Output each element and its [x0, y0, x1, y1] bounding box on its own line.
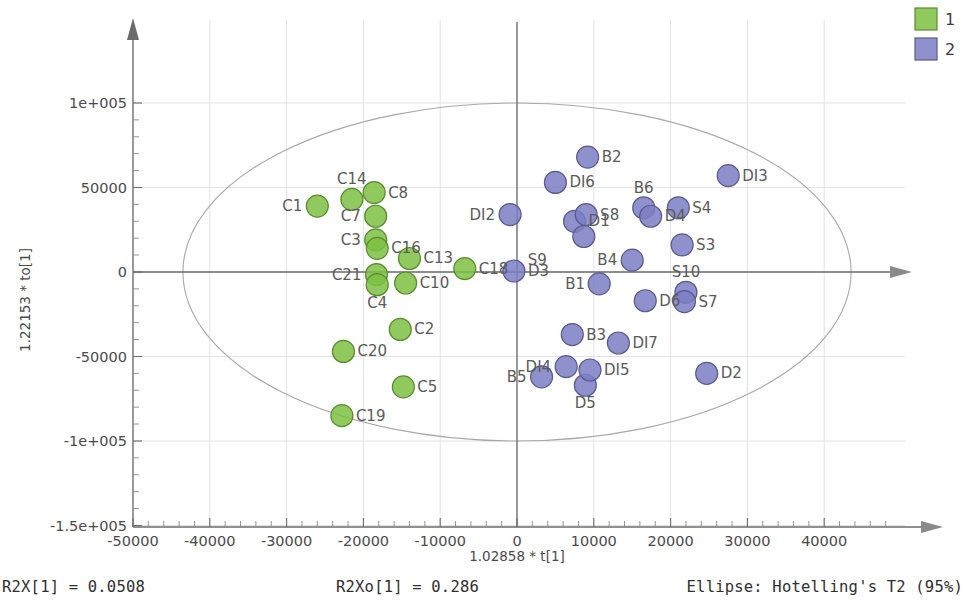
data-point[interactable]	[306, 195, 328, 217]
data-point[interactable]	[332, 340, 354, 362]
data-point-label: D2	[721, 364, 742, 382]
data-point[interactable]	[561, 324, 583, 346]
data-point-label: DI6	[569, 173, 595, 191]
x-tick-label: 0	[512, 533, 521, 549]
data-point[interactable]	[544, 171, 566, 193]
data-point-label: B6	[634, 179, 654, 197]
data-point-label: S7	[698, 293, 717, 311]
x-tick-label: 10000	[571, 533, 617, 549]
data-point-label: C5	[417, 378, 437, 396]
data-point-label: DI4	[526, 358, 552, 376]
data-point[interactable]	[331, 405, 353, 427]
data-point-label: C4	[367, 294, 387, 312]
data-point[interactable]	[579, 359, 601, 381]
data-point-label: C2	[414, 320, 434, 338]
legend-swatch[interactable]	[915, 38, 937, 60]
y-tick-label: 1e+005	[69, 95, 127, 111]
scatter-plot-canvas: -50000-40000-30000-20000-100000100002000…	[0, 0, 965, 605]
data-point[interactable]	[366, 237, 388, 259]
legend-swatch[interactable]	[915, 8, 937, 30]
data-point-label: C10	[420, 274, 450, 292]
data-point[interactable]	[634, 290, 656, 312]
data-point[interactable]	[577, 146, 599, 168]
data-point[interactable]	[392, 376, 414, 398]
plot-background	[0, 0, 965, 605]
data-point[interactable]	[499, 204, 521, 226]
data-point-label: B5	[507, 368, 527, 386]
data-point-label: C19	[356, 407, 386, 425]
data-point[interactable]	[366, 274, 388, 296]
data-point-label: B1	[565, 275, 585, 293]
data-point-label: S8	[600, 206, 619, 224]
y-tick-label: -50000	[76, 349, 127, 365]
data-point-label: DI3	[742, 167, 768, 185]
data-point[interactable]	[555, 356, 577, 378]
data-point-label: S9	[528, 251, 547, 269]
y-tick-label: -1e+005	[64, 433, 127, 449]
data-point[interactable]	[365, 205, 387, 227]
x-tick-label: 30000	[724, 533, 770, 549]
data-point-label: DI2	[470, 206, 496, 224]
x-tick-label: -10000	[415, 533, 466, 549]
footer-r2xo: R2Xo[1] = 0.286	[336, 578, 479, 596]
x-tick-label: 40000	[801, 533, 847, 549]
y-tick-label: -1.5e+005	[50, 518, 127, 534]
data-point[interactable]	[607, 332, 629, 354]
data-point[interactable]	[395, 272, 417, 294]
legend-label: 2	[945, 40, 955, 59]
x-tick-label: -30000	[261, 533, 312, 549]
data-point-label: C8	[388, 184, 408, 202]
data-point[interactable]	[621, 249, 643, 271]
data-point-label: B2	[602, 148, 622, 166]
data-point[interactable]	[671, 234, 693, 256]
footer-r2x: R2X[1] = 0.0508	[2, 578, 145, 596]
data-point-label: DI5	[604, 361, 630, 379]
data-point-label: S3	[696, 236, 715, 254]
x-tick-label: -40000	[184, 533, 235, 549]
data-point-label: C20	[357, 342, 387, 360]
x-tick-label: -50000	[107, 533, 158, 549]
data-point-label: C14	[337, 170, 367, 188]
data-point[interactable]	[717, 165, 739, 187]
data-point-label: S10	[672, 263, 701, 281]
data-point-label: C18	[479, 260, 509, 278]
data-point-label: C21	[332, 266, 362, 284]
y-tick-label: 0	[118, 264, 127, 280]
data-point-label: D5	[575, 394, 596, 412]
data-point-label: B4	[597, 251, 617, 269]
data-point-label: C1	[282, 197, 302, 215]
x-tick-label: -20000	[338, 533, 389, 549]
data-point[interactable]	[588, 273, 610, 295]
data-point-label: C16	[391, 239, 421, 257]
data-point-label: D4	[665, 207, 686, 225]
x-axis-title: 1.02858 * t[1]	[469, 548, 565, 564]
y-axis-title: 1.22153 * to[1]	[17, 248, 33, 352]
data-point-label: S4	[692, 199, 711, 217]
data-point-label: B3	[586, 326, 606, 344]
data-point[interactable]	[454, 258, 476, 280]
data-point[interactable]	[696, 362, 718, 384]
data-point-label: C3	[341, 231, 361, 249]
data-point-label: DI7	[632, 334, 658, 352]
data-point-label: D6	[659, 292, 680, 310]
data-point-label: C7	[341, 207, 361, 225]
score-plot-window: -50000-40000-30000-20000-100000100002000…	[0, 0, 965, 605]
y-tick-label: 50000	[81, 180, 127, 196]
legend-label: 1	[945, 10, 955, 29]
footer-ellipse-note: Ellipse: Hotelling's T2 (95%)	[687, 578, 963, 596]
data-point[interactable]	[389, 318, 411, 340]
x-tick-label: 20000	[648, 533, 694, 549]
data-point-label: C13	[423, 249, 453, 267]
data-point[interactable]	[640, 205, 662, 227]
